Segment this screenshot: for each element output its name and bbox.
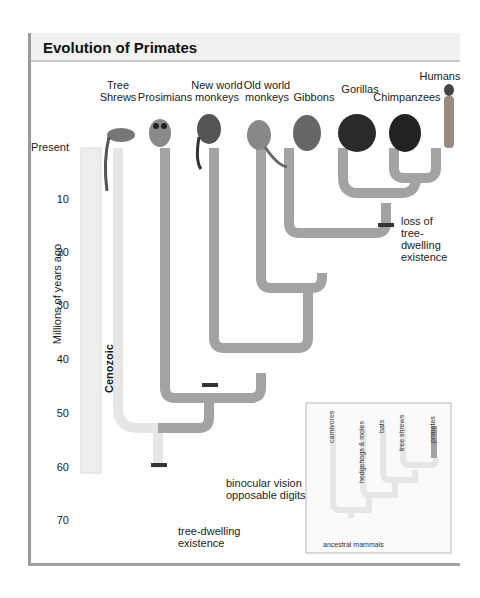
- binocular-marker: [202, 383, 218, 387]
- inset-carnivores: carnivores: [328, 411, 335, 443]
- taxon-prosimians: Prosimians: [135, 91, 195, 103]
- chimpanzee-icon: [387, 113, 423, 155]
- new-world-monkey-icon: [191, 111, 225, 179]
- inset-primates: primates: [429, 416, 436, 443]
- annotation-loss-tree-dwelling: loss oftree-dwellingexistence: [401, 215, 447, 263]
- inset-hedgehogs-moles: hedgehogs & moles: [358, 421, 365, 483]
- old-world-monkey-icon: [241, 117, 289, 177]
- taxon-new-world-monkeys: New worldmonkeys: [189, 79, 245, 103]
- gibbon-icon: [289, 113, 329, 153]
- tick-10: 10: [29, 193, 69, 205]
- cenozoic-bar: [81, 148, 101, 473]
- inset-ancestral-mammals: ancestral mammals: [323, 541, 384, 548]
- loss-marker: [378, 223, 394, 227]
- tick-40: 40: [29, 353, 69, 365]
- tick-present: Present: [21, 141, 69, 153]
- era-label: Cenozoic: [103, 344, 115, 393]
- taxon-gibbons: Gibbons: [289, 91, 339, 103]
- human-icon: [440, 83, 458, 151]
- figure-card: Evolution of Primates Millions of ye: [28, 33, 460, 566]
- tick-70: 70: [29, 514, 69, 526]
- gorilla-icon: [336, 113, 378, 155]
- tick-50: 50: [29, 407, 69, 419]
- prosimian-icon: [145, 113, 175, 149]
- taxon-old-world-monkeys: Old worldmonkeys: [239, 79, 295, 103]
- annotation-tree-dwelling: tree-dwellingexistence: [178, 525, 240, 549]
- tree-dwelling-marker: [151, 463, 167, 467]
- tick-30: 30: [29, 299, 69, 311]
- taxon-humans: Humans: [417, 70, 463, 82]
- inset-tree-shrews: tree shrews: [398, 415, 405, 451]
- inset-bats: bats: [378, 420, 385, 433]
- tick-20: 20: [29, 246, 69, 258]
- y-axis-label: Millions of years ago: [51, 224, 63, 364]
- tick-60: 60: [29, 461, 69, 473]
- annotation-binocular: binocular visionopposable digits: [226, 477, 306, 501]
- taxon-chimpanzees: Chimpanzees: [373, 91, 441, 103]
- tree-shrew-icon: [99, 121, 141, 196]
